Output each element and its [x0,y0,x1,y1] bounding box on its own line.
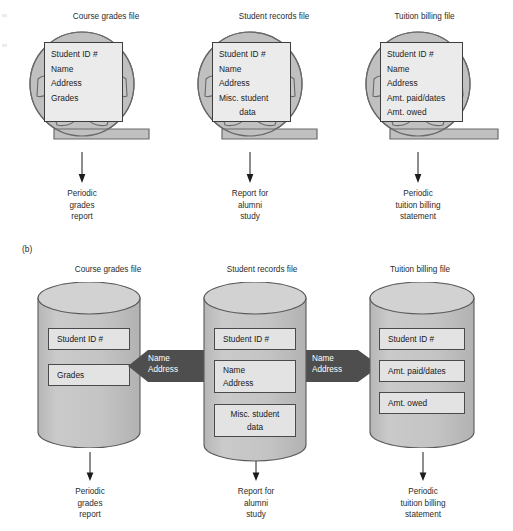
output-line: alumni [196,498,316,510]
field-list-student-records-top: Student ID # Name Address Misc. student … [212,42,291,122]
tape-reel-icon-student-records: Student ID # Name Address Misc. student … [192,26,322,151]
data-box-line: Misc. student [223,408,295,420]
output-course-grades-db: Periodic grades report [30,486,150,521]
tape-reel-icon-tuition-billing: Student ID # Name Address Amt. paid/date… [360,26,490,151]
field-item: data [219,105,290,120]
file-title-tuition-billing-top: Tuition billing file [336,12,513,23]
output-tuition-billing-db: Periodic tuition billing statement [363,486,483,521]
data-box-line: Amt. paid/dates [388,365,464,377]
output-line: statement [363,509,483,521]
field-item: Student ID # [387,47,462,62]
tape-reel-icon-course-grades: Student ID # Name Address Grades [24,26,154,151]
output-line: Report for [196,486,316,498]
flow-arrow-down [412,152,424,184]
data-box-line: Grades [57,369,129,381]
data-box-line: Student ID # [388,333,464,345]
field-item: Name [51,62,122,77]
data-box-line: Student ID # [57,333,129,345]
field-item: Address [219,76,290,91]
output-line: Periodic [363,486,483,498]
output-course-grades-top: Periodic grades report [22,188,142,223]
field-item: Student ID # [219,47,290,62]
output-line: tuition billing [358,200,478,212]
cylinder-database-icon-course-grades: Student ID # Grades [36,282,142,448]
data-box-line: data [223,421,295,433]
data-box-line: Student ID # [223,333,295,345]
data-box-student-id: Student ID # [379,328,465,350]
data-box-student-id: Student ID # [214,328,296,350]
section-label-b: (b) [22,244,32,254]
flow-arrow-down [76,152,88,184]
data-box-grades: Grades [48,364,130,386]
field-item: Address [51,76,122,91]
field-item: Student ID # [51,47,122,62]
margin-artifact [2,44,7,47]
field-item: Address [387,76,462,91]
file-title-tuition-billing-db: Tuition billing file [330,265,510,276]
output-line: grades [30,498,150,510]
output-line: study [190,211,310,223]
cylinder-database-icon-tuition-billing: Student ID # Amt. paid/dates Amt. owed [368,282,476,448]
field-item: Amt. paid/dates [387,91,462,106]
output-line: study [196,509,316,521]
flow-arrow-down [244,152,256,184]
file-title-course-grades-db: Course grades file [18,265,198,276]
file-title-student-records-db: Student records file [172,265,352,276]
shared-data-arrow-left [128,347,204,385]
output-line: statement [358,211,478,223]
data-box-amt-owed: Amt. owed [379,392,465,414]
field-list-tuition-billing-top: Student ID # Name Address Amt. paid/date… [380,42,463,122]
output-line: report [22,211,142,223]
output-student-records-top: Report for alumni study [190,188,310,223]
data-box-amt-paid-dates: Amt. paid/dates [379,360,465,382]
output-line: alumni [190,200,310,212]
output-tuition-billing-top: Periodic tuition billing statement [358,188,478,223]
data-box-line: Amt. owed [388,397,464,409]
output-line: Periodic [30,486,150,498]
field-list-course-grades-top: Student ID # Name Address Grades [44,42,123,122]
flow-arrow-down [417,452,429,482]
output-line: grades [22,200,142,212]
data-box-student-id: Student ID # [48,328,130,350]
data-box-name-address: Name Address [214,360,296,393]
cylinder-database-icon-student-records: Student ID # Name Address Misc. student … [202,282,308,462]
field-item: Misc. student [219,91,290,106]
output-line: Periodic [22,188,142,200]
field-item: Name [387,62,462,77]
output-line: tuition billing [363,498,483,510]
field-item: Name [219,62,290,77]
output-line: Report for [190,188,310,200]
output-line: report [30,509,150,521]
field-item: Amt. owed [387,105,462,120]
output-line: Periodic [358,188,478,200]
field-item: Grades [51,91,122,106]
data-box-line: Address [223,377,295,389]
output-student-records-db: Report for alumni study [196,486,316,521]
flow-arrow-down [84,452,96,482]
data-box-misc-student-data: Misc. student data [214,404,296,437]
data-box-line: Name [223,364,295,376]
